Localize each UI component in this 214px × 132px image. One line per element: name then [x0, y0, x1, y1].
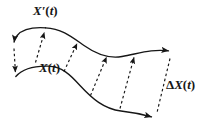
label-x-prime-var: X: [33, 3, 42, 18]
connector-1: [14, 49, 15, 73]
label-x-var: X: [39, 60, 48, 75]
connector-5: [120, 58, 134, 109]
label-delta-symbol: Δ: [166, 77, 174, 92]
figure-container: X′(t) X(t) ΔX(t): [0, 0, 214, 132]
displacement-connectors: [14, 33, 170, 113]
upper-curve-group: [14, 28, 168, 57]
upper-curve-start-arrow: [14, 28, 45, 42]
label-delta-x-var: X: [174, 77, 183, 92]
lower-curve-path: [16, 66, 152, 117]
lower-curve-group: [16, 66, 152, 117]
label-x-close-paren: ): [56, 60, 60, 75]
label-x-of-t: X(t): [39, 61, 60, 74]
label-x-prime-of-t: X′(t): [33, 4, 58, 17]
diagram-canvas: [0, 0, 214, 132]
connector-3: [64, 44, 77, 72]
connector-4: [91, 57, 107, 96]
label-delta-x-of-t: ΔX(t): [166, 78, 195, 91]
label-x-prime-close-paren: ): [53, 3, 57, 18]
upper-curve-path: [46, 28, 169, 57]
connector-2: [36, 33, 45, 63]
label-delta-x-close-paren: ): [191, 77, 195, 92]
